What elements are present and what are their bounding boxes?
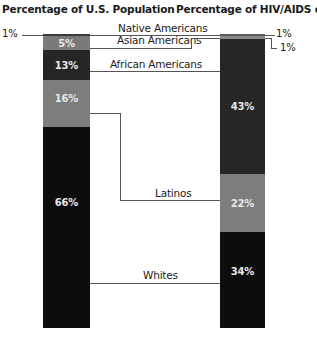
connector-label-native-americans: Native Americans: [118, 22, 208, 34]
segment-latinos: 22%: [220, 174, 265, 232]
segment-value: 66%: [55, 197, 78, 208]
connector-latinos-h1: [90, 113, 120, 114]
connector-latinos-h2: [120, 200, 220, 201]
segment-value: 13%: [55, 60, 78, 71]
connector-label-whites: Whites: [143, 269, 178, 281]
connector-label-asian-americans: Asian Americans: [117, 34, 201, 46]
connector-label-african-americans: African Americans: [110, 58, 202, 70]
segment-value: 5%: [58, 38, 75, 49]
segment-latinos: 16%: [43, 80, 90, 127]
right-native-tick: [265, 35, 275, 36]
right-bar-title: Percentage of HIV/AIDS cases: [176, 3, 317, 15]
right-asian-value: 1%: [280, 42, 296, 53]
segment-value: 43%: [231, 101, 254, 112]
right-native-value: 1%: [276, 28, 292, 39]
segment-asian-americans: 5%: [43, 36, 90, 50]
connector-whites: [90, 283, 220, 284]
connector-african-americans: [90, 71, 220, 72]
segment-value: 34%: [231, 266, 254, 277]
left-bar-title: Percentage of U.S. Population: [2, 3, 174, 15]
connector-label-latinos: Latinos: [155, 187, 191, 199]
segment-value: 22%: [231, 198, 254, 209]
segment-whites: 66%: [43, 127, 90, 328]
segment-african-americans: 43%: [220, 39, 265, 174]
connector-asian-americans-h1: [90, 48, 192, 49]
connector-asian-americans-v: [191, 38, 192, 49]
hiv-aids-bar: 43% 22% 34%: [220, 34, 265, 328]
connector-asian-americans-h2: [191, 38, 220, 39]
left-native-value: 1%: [2, 28, 18, 39]
left-native-tick: [22, 35, 43, 36]
right-asian-tick-v: [271, 38, 272, 48]
connector-latinos-v: [120, 113, 121, 200]
segment-african-americans: 13%: [43, 50, 90, 80]
segment-whites: 34%: [220, 232, 265, 328]
right-asian-tick-h2: [271, 48, 277, 49]
population-bar: 5% 13% 16% 66%: [43, 34, 90, 328]
segment-value: 16%: [55, 93, 78, 104]
